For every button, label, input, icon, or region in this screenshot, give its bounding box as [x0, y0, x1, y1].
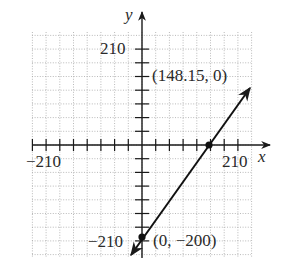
- x-axis-label: x: [257, 147, 266, 166]
- point-y-intercept-label: (0, −200): [153, 231, 216, 250]
- point-x-intercept: [205, 141, 212, 148]
- x-neg-tick-label: −210: [26, 152, 61, 171]
- x-pos-tick-label: 210: [222, 152, 248, 171]
- point-x-intercept-label: (148.15, 0): [152, 66, 227, 85]
- coordinate-plane: y x 210 −210 210 −210 (148.15, 0) (0, −2…: [0, 0, 284, 263]
- y-axis-label: y: [123, 5, 133, 24]
- point-y-intercept: [138, 233, 145, 240]
- data-line: [131, 88, 250, 255]
- y-neg-tick-label: −210: [88, 232, 123, 251]
- y-pos-tick-label: 210: [100, 39, 126, 58]
